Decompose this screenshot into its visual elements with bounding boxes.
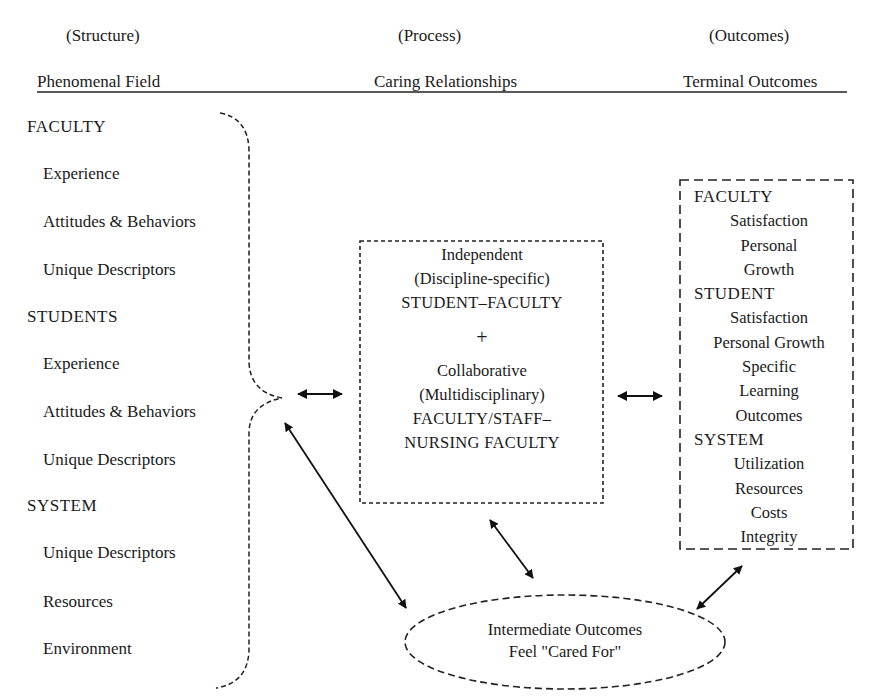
process-box (360, 241, 603, 503)
brace-icon (216, 113, 282, 688)
arrow-process-intermediate (490, 520, 533, 578)
outcomes-box (680, 180, 853, 549)
arrow-structure-intermediate (285, 423, 406, 608)
intermediate-ellipse (405, 595, 725, 689)
diagram-graphics (0, 0, 877, 699)
arrow-outcomes-intermediate (697, 566, 742, 609)
